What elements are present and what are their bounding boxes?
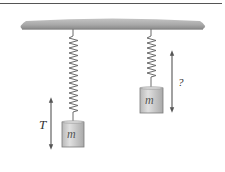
ceiling-bar: [21, 19, 205, 30]
left-mass-label: m: [67, 127, 76, 142]
right-spring: [147, 29, 156, 88]
diagram-canvas: [0, 0, 225, 172]
right-mass-label: m: [145, 93, 154, 108]
right-period-label: ?: [178, 76, 184, 88]
left-spring: [69, 29, 78, 122]
left-period-label: T: [39, 117, 46, 133]
